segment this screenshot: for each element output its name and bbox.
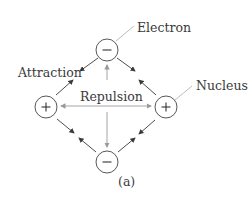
electron-leader-line: [116, 26, 134, 41]
nucleus-leader-line: [175, 86, 192, 100]
electron-top: [96, 39, 118, 61]
electron-nucleus-diagram: Electron Attraction Nucleus Repulsion (a…: [0, 0, 249, 209]
electron-bottom: [96, 151, 118, 173]
nucleus-right: [155, 96, 177, 118]
repulsion-label: Repulsion: [80, 89, 143, 104]
electron-label: Electron: [137, 20, 191, 35]
nucleus-left: [35, 96, 57, 118]
attraction-label: Attraction: [17, 65, 82, 80]
figure-caption: (a): [118, 174, 135, 189]
nucleus-label: Nucleus: [196, 78, 248, 93]
